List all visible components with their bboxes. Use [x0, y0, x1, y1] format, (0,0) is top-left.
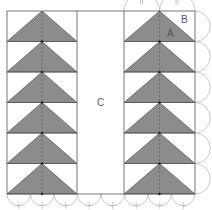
top-arcs [124, 0, 195, 11]
label-a: A [167, 28, 174, 39]
right-arcs [195, 11, 210, 194]
label-c: C [97, 97, 104, 108]
bottom-arcs [7, 194, 195, 209]
label-b: B [181, 14, 188, 25]
geometry-figure: B A C [0, 0, 212, 210]
